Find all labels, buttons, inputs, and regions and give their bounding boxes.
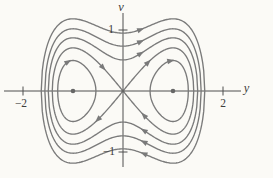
phase-plot-canvas: [0, 0, 273, 178]
flow-arrow: [140, 140, 148, 146]
y-axis-label: y: [244, 82, 250, 95]
flow-arrow: [136, 40, 144, 45]
v-tick-label-neg1: −1: [103, 146, 115, 158]
flow-arrow: [141, 128, 149, 134]
flow-arrow: [137, 28, 145, 33]
y-tick-label-2: 2: [220, 98, 226, 110]
flow-arrow: [167, 59, 175, 64]
phase-portrait-figure: v y 1 −1 −2 2: [0, 0, 273, 178]
saddle-point: [121, 89, 124, 92]
y-tick-label-neg2: −2: [15, 98, 27, 110]
flow-arrow: [136, 52, 144, 58]
center-point: [71, 89, 76, 94]
v-axis-label: v: [118, 1, 124, 14]
flow-arrow: [140, 152, 148, 157]
center-point: [171, 89, 176, 94]
v-tick-label-1: 1: [108, 24, 114, 36]
